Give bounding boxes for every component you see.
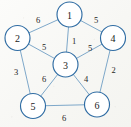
node-label-2: 2: [15, 33, 20, 44]
graph-edge-5-6: [45, 105, 84, 106]
node-label-1: 1: [67, 10, 72, 21]
edge-weight-5-6: 6: [62, 113, 66, 123]
edge-weight-3-6: 4: [84, 74, 89, 84]
edge-weight-3-4: 5: [88, 43, 92, 53]
edge-weight-3-5: 6: [42, 74, 46, 84]
edge-weight-2-5: 3: [14, 67, 18, 77]
graph-edge-2-1: [29, 20, 58, 33]
graph-canvas: 123456 6515536426: [0, 0, 131, 127]
node-label-6: 6: [95, 100, 100, 111]
graph-node-5: 5: [21, 94, 46, 119]
graph-node-4: 4: [101, 26, 126, 51]
edge-weight-4-6: 2: [111, 65, 115, 75]
graph-edge-1-3: [66, 27, 68, 52]
node-label-5: 5: [31, 101, 36, 112]
edge-weight-1-4: 5: [94, 15, 98, 25]
node-label-3: 3: [63, 60, 68, 71]
graph-node-3: 3: [53, 52, 78, 77]
graph-node-2: 2: [5, 26, 30, 51]
edge-weight-1-3: 1: [72, 36, 76, 46]
graph-edge-4-6: [100, 50, 110, 92]
graph-node-1: 1: [57, 2, 82, 27]
graph-figure: 123456 6515536426: [0, 0, 131, 127]
edge-weight-2-1: 6: [36, 15, 40, 25]
graph-edge-1-4: [80, 20, 102, 32]
edge-weight-2-3: 5: [42, 42, 46, 52]
graph-node-6: 6: [85, 92, 110, 117]
graph-edge-2-5: [20, 50, 30, 94]
node-label-4: 4: [111, 33, 116, 44]
